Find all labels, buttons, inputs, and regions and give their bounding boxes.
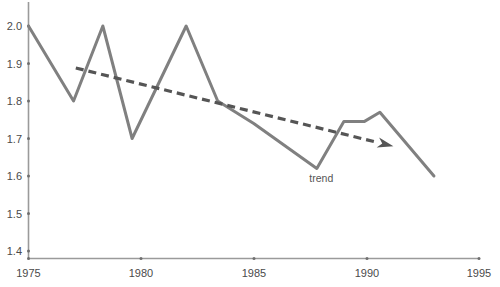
trend-annotation-label: trend [309,172,333,184]
y-tick-mark [27,212,30,215]
x-tick-mark [140,257,143,260]
x-tick-mark [253,257,256,260]
x-tick-label-1995: 1995 [467,267,491,279]
trend-line [76,68,378,143]
trend-arrow-icon [377,137,394,147]
y-axis-labels: 1.4 1.5 1.6 1.7 1.8 1.9 2.0 [7,20,22,257]
y-tick-label-2-0: 2.0 [7,20,22,32]
line-chart: 1.4 1.5 1.6 1.7 1.8 1.9 2.0 1975 1980 19… [0,0,500,287]
y-tick-mark [27,62,30,65]
x-axis-labels: 1975 1980 1985 1990 1995 [16,267,491,279]
y-tick-label-1-9: 1.9 [7,58,22,70]
y-tick-mark [27,175,30,178]
x-tick-label-1985: 1985 [242,267,266,279]
x-tick-label-1990: 1990 [355,267,379,279]
chart-canvas: 1.4 1.5 1.6 1.7 1.8 1.9 2.0 1975 1980 19… [0,0,500,287]
data-series-line [29,26,434,176]
x-tick-label-1975: 1975 [16,267,40,279]
y-tick-label-1-4: 1.4 [7,245,22,257]
y-tick-mark [27,250,30,253]
y-tick-label-1-8: 1.8 [7,95,22,107]
y-tick-label-1-7: 1.7 [7,133,22,145]
y-tick-label-1-5: 1.5 [7,208,22,220]
x-tick-mark [478,257,481,260]
x-tick-mark [366,257,369,260]
y-tick-label-1-6: 1.6 [7,170,22,182]
x-tick-mark [27,257,30,260]
y-tick-mark [27,100,30,103]
x-tick-label-1980: 1980 [129,267,153,279]
y-tick-mark [27,137,30,140]
